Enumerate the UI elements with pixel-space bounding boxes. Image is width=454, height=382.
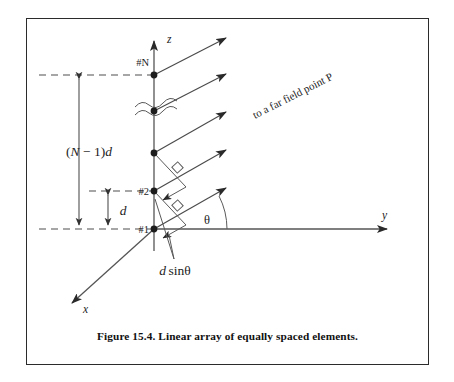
dimension-spacing-label: d	[120, 203, 127, 218]
z-axis-label: z	[166, 33, 172, 45]
ray-element-2	[154, 150, 226, 191]
figure-frame: (N − 1)d d z y x	[26, 18, 429, 365]
right-angle-marker-upper	[172, 162, 183, 173]
element-label-1: #1	[139, 224, 150, 235]
theta-label: θ	[204, 213, 210, 227]
theta-arc	[219, 196, 227, 229]
path-difference-label: d sinθ	[159, 263, 191, 278]
figure-page: (N − 1)d d z y x	[0, 0, 454, 382]
path-difference-arrow-upper	[163, 187, 186, 200]
ray-element-3	[154, 112, 226, 153]
path-difference-construction	[154, 153, 186, 238]
y-axis-label: y	[381, 209, 388, 222]
right-angle-marker-lower	[172, 200, 183, 211]
ray-element-1	[154, 188, 226, 229]
ray-element-4	[154, 74, 226, 111]
element-dot-3	[151, 150, 158, 157]
element-dot-n	[151, 72, 158, 79]
element-dot-2	[151, 188, 158, 195]
figure-caption: Figure 15.4. Linear array of equally spa…	[27, 330, 428, 342]
element-dot-4	[151, 108, 158, 115]
far-field-rays	[154, 38, 226, 229]
element-dot-1	[151, 226, 158, 233]
array-diagram: (N − 1)d d z y x	[27, 19, 428, 364]
dimension-total-label: (N − 1)d	[66, 144, 112, 159]
ray-element-n	[154, 38, 226, 75]
far-field-label: to a far field point P	[250, 70, 334, 121]
x-axis	[72, 229, 154, 303]
element-label-n: #N	[136, 57, 149, 68]
x-axis-label: x	[82, 303, 89, 315]
element-label-2: #2	[139, 186, 150, 197]
